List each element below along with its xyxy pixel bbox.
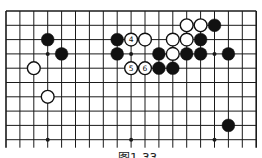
board-grid — [6, 11, 256, 148]
white-stone — [27, 62, 40, 75]
black-stone — [153, 62, 166, 75]
black-stone — [111, 48, 124, 61]
black-stone — [194, 48, 207, 61]
white-stone — [180, 19, 193, 32]
diagram-caption: 图1-33 — [118, 152, 157, 158]
black-stone — [55, 48, 68, 61]
star-point — [213, 138, 217, 142]
black-stone — [41, 33, 54, 46]
black-stone — [208, 19, 221, 32]
white-stone: 6 — [139, 62, 152, 75]
white-stone — [180, 33, 193, 46]
white-stone — [166, 33, 179, 46]
star-point — [129, 52, 133, 56]
white-stone — [166, 48, 179, 61]
white-stone: 5 — [125, 62, 138, 75]
black-stone — [194, 33, 207, 46]
star-point — [46, 52, 50, 56]
white-stone — [139, 33, 152, 46]
black-stone — [166, 62, 179, 75]
black-stone — [153, 48, 166, 61]
star-point — [129, 138, 133, 142]
stone-move-number: 6 — [143, 64, 148, 73]
go-board-diagram: 456 — [0, 0, 262, 158]
stone-move-number: 4 — [129, 35, 134, 44]
star-point — [46, 138, 50, 142]
stone-move-number: 5 — [129, 64, 134, 73]
black-stone — [222, 119, 235, 132]
black-stone — [222, 48, 235, 61]
black-stone — [180, 48, 193, 61]
white-stone: 4 — [125, 33, 138, 46]
white-stone — [194, 19, 207, 32]
star-point — [213, 52, 217, 56]
white-stone — [41, 90, 54, 103]
black-stone — [111, 33, 124, 46]
